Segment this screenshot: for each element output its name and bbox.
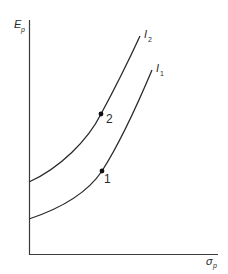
curve-i2-label: I <box>144 28 147 40</box>
curve-i2-label-subscript: 2 <box>148 36 152 43</box>
indifference-curve-i2 <box>29 36 140 182</box>
x-axis-label-subscript: p <box>212 262 217 270</box>
point-2-marker <box>99 112 104 117</box>
point-1-label: 1 <box>104 172 111 186</box>
curve-i1-label-subscript: 1 <box>160 70 164 77</box>
indifference-curve-i1 <box>29 70 152 219</box>
y-axis-label-subscript: p <box>20 26 25 34</box>
indifference-curve-diagram: 2 1 E p σ p I 2 I 1 <box>0 0 228 274</box>
curve-i1-label: I <box>156 62 159 74</box>
point-2-label: 2 <box>106 112 113 126</box>
x-axis-label: σ <box>206 255 213 267</box>
